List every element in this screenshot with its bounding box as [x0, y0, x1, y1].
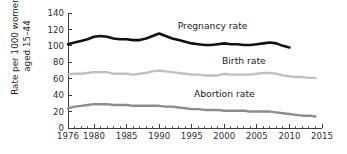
x-tick-label: 1985 [116, 131, 138, 141]
y-tick-label: 100 [48, 41, 64, 51]
y-tick-label: 80 [53, 57, 64, 67]
series-line-abortion-rate [68, 104, 315, 116]
x-tick-label: 1976 [57, 131, 79, 141]
y-tick-label: 60 [53, 74, 64, 84]
x-tick-label: 2005 [246, 131, 268, 141]
x-tick-label: 1980 [83, 131, 105, 141]
y-axis-title-group: Rate per 1000 women aged 15–44 [10, 0, 32, 95]
line-chart: Rate per 1000 women aged 15–44 020406080… [0, 0, 347, 154]
series-label-birth-rate: Birth rate [222, 55, 266, 66]
x-tick-label: 2015 [311, 131, 333, 141]
x-tick-label: 1990 [148, 131, 170, 141]
series-label-pregnancy-rate: Pregnancy rate [178, 20, 248, 31]
x-tick-label: 2010 [278, 131, 300, 141]
y-tick-label: 20 [53, 107, 64, 117]
y-axis-title-line1: Rate per 1000 women [10, 0, 20, 95]
y-tick-label: 140 [48, 8, 64, 18]
x-axis-ticks: 197619801985199019952000200520102015 [57, 124, 333, 141]
series-line-pregnancy-rate [68, 34, 289, 48]
x-tick-label: 1995 [181, 131, 203, 141]
series-label-abortion-rate: Abortion rate [194, 88, 255, 99]
series-lines [68, 34, 315, 117]
chart-figure: Rate per 1000 women aged 15–44 020406080… [0, 0, 347, 154]
x-tick-label: 2000 [213, 131, 235, 141]
y-tick-label: 40 [53, 90, 64, 100]
series-labels: Pregnancy rateBirth rateAbortion rate [178, 20, 266, 98]
y-axis-title-line2: aged 15–44 [22, 20, 32, 72]
y-tick-label: 120 [48, 25, 64, 35]
series-line-birth-rate [68, 71, 315, 78]
